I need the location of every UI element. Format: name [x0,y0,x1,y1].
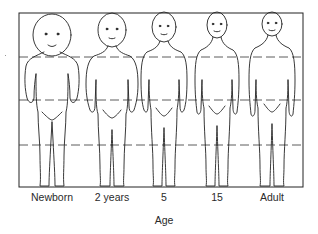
label-5-years: 5 [161,191,167,203]
axis-title-age: Age [155,214,174,226]
label-2-years: 2 years [95,191,129,203]
stray-mark [5,55,6,56]
figure-adult [249,12,295,186]
label-newborn: Newborn [31,191,73,203]
figure-2-years [86,13,138,186]
figure-5-years [141,12,187,186]
figure-15-years [195,12,239,186]
label-adult: Adult [260,191,284,203]
quarter-lines [19,57,303,145]
label-15-years: 15 [211,191,223,203]
